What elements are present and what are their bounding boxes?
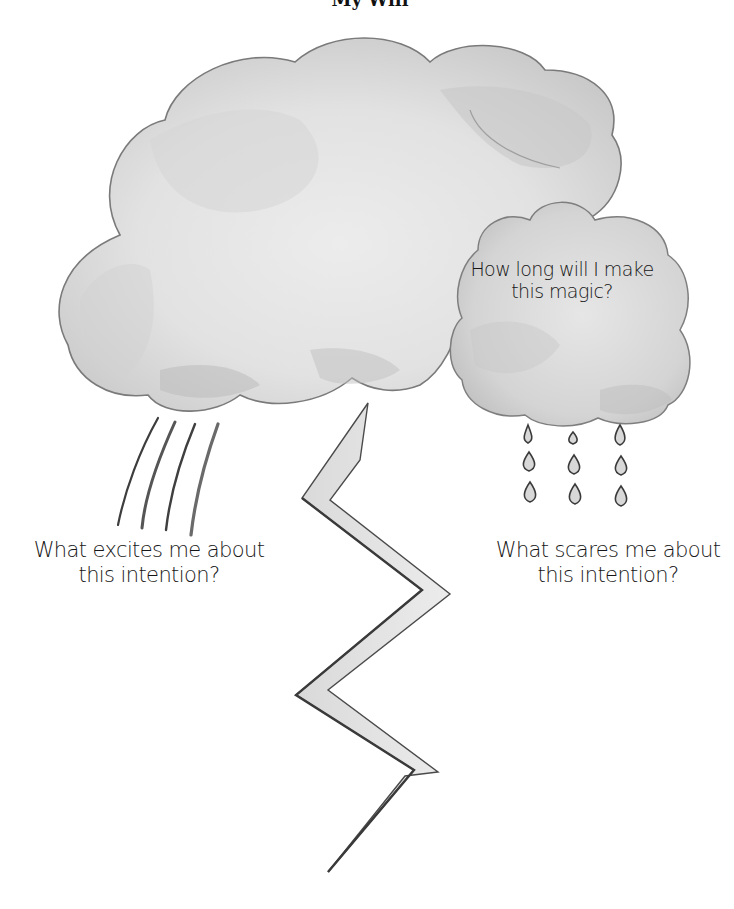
prompt-line: this intention?	[484, 563, 732, 588]
weather-illustration	[0, 0, 734, 909]
rain-cloud-prompt: How long will I make this magic?	[462, 258, 662, 302]
raindrops	[523, 425, 626, 506]
scares-prompt: What scares me about this intention?	[484, 538, 732, 588]
prompt-line: What excites me about	[18, 538, 280, 563]
prompt-line: How long will I make	[462, 258, 662, 280]
rain-cloud	[450, 202, 690, 426]
prompt-line: What scares me about	[484, 538, 732, 563]
prompt-line: this magic?	[462, 280, 662, 302]
excites-prompt: What excites me about this intention?	[18, 538, 280, 588]
worksheet-page: My Will	[0, 0, 734, 909]
wind-streaks	[118, 418, 218, 535]
prompt-line: this intention?	[18, 563, 280, 588]
lightning-bolt	[296, 403, 450, 872]
